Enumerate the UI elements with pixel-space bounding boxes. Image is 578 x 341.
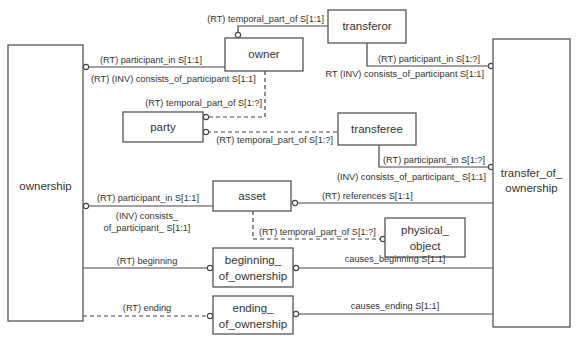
entity-transferor[interactable]: transferor [328, 10, 406, 43]
entity-physical-object[interactable]: physical_ object [385, 218, 465, 257]
owner-temporal-part-of-line [238, 26, 328, 36]
entity-owner[interactable]: owner [225, 38, 303, 71]
relation-label: (INV) consists_of_participant_ S[1:1] [337, 172, 486, 182]
ending-connector-circle-right [293, 311, 298, 316]
beginning-connector-circle-right [293, 265, 298, 270]
relation-label: causes_ending S[1:1] [351, 301, 439, 311]
party-connector-circle-2 [203, 129, 208, 134]
entity-label: transferee [351, 123, 403, 135]
relation-label: (RT) participant_in S[1:1] [100, 55, 202, 65]
relation-label: (RT) participant_in S[1:1] [97, 193, 199, 203]
entity-label: asset [238, 190, 266, 202]
relation-label: causes_beginning S[1:1] [345, 254, 446, 264]
relation-label: (RT) references S[1:1] [322, 191, 413, 201]
entity-label: transferor [342, 20, 391, 32]
relation-label: (RT) (INV) consists_of_participant S[1:1… [91, 74, 256, 84]
ownership-data-model-diagram: ownership transfer_of_ ownership owner t… [0, 0, 578, 341]
entity-ownership[interactable]: ownership [8, 45, 83, 321]
entity-label-line-2: of_ownership [219, 318, 287, 330]
entity-transfer-of-ownership[interactable]: transfer_of_ ownership [493, 39, 570, 327]
entity-transferee[interactable]: transferee [338, 113, 416, 145]
ending-connector-circle-left [207, 313, 212, 318]
ownership-connector-circle-2 [83, 203, 88, 208]
entity-party[interactable]: party [123, 112, 203, 142]
entity-label: owner [248, 48, 279, 60]
beginning-connector-circle-left [207, 265, 212, 270]
ownership-connector-circle [83, 64, 88, 69]
relation-label: (RT) beginning [117, 256, 178, 266]
relation-label: (INV) consists_ [116, 211, 179, 221]
relation-label: of_participant_ S[1:1] [104, 223, 191, 233]
entity-ending-of-ownership[interactable]: ending_ of_ownership [213, 296, 293, 334]
owner-connector-circle [235, 32, 240, 37]
entity-label-line-1: physical_ [401, 224, 450, 236]
relation-label: (RT) temporal_part_of S[1:1] [207, 14, 324, 24]
entity-label-line-1: transfer_of_ [501, 167, 563, 179]
relation-label: (RT) temporal_part_of S[1:?] [145, 98, 262, 108]
relation-label: RT (INV) consists_of_participant S[1:1] [326, 69, 484, 79]
entity-label-line-2: object [410, 240, 441, 252]
relation-label: (RT) temporal_part_of S[1:?] [216, 135, 333, 145]
entity-label-line-2: ownership [505, 182, 557, 194]
entity-label: party [150, 121, 176, 133]
asset-connector-circle [292, 200, 297, 205]
relation-label: (RT) temporal_part_of S[1:?] [259, 227, 376, 237]
relation-label: (RT) participant_in S[1:?] [383, 155, 485, 165]
party-connector-circle-1 [203, 114, 208, 119]
relation-label: (RT) ending [123, 303, 171, 313]
entity-label-line-2: of_ownership [219, 270, 287, 282]
relation-label: (RT) participant_in S[1:?] [378, 54, 480, 64]
entity-label: ownership [19, 180, 71, 192]
entity-label-line-1: ending_ [233, 302, 275, 314]
entity-asset[interactable]: asset [213, 181, 291, 211]
entity-label-line-1: beginning_ [225, 254, 282, 266]
entity-beginning-of-ownership[interactable]: beginning_ of_ownership [213, 248, 293, 287]
